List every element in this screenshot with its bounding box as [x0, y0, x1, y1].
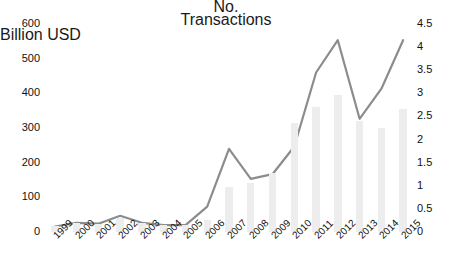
left-axis-tick-labels: 6005004003002001000 [8, 0, 40, 279]
right-tick-3.5: 3.5 [417, 64, 447, 75]
bar-2013 [356, 121, 363, 232]
right-axis-tick-labels: 4.543.532.521.510.50 [417, 0, 451, 279]
x-axis-category-labels: 1999200020012002200320042005200620072008… [44, 233, 414, 279]
bar-2010 [291, 123, 298, 232]
right-tick-4.5: 4.5 [417, 18, 447, 29]
plot-area [44, 24, 414, 232]
bar-2011 [312, 107, 319, 232]
right-tick-4: 4 [417, 41, 447, 52]
chart-container: No. Transactions Billion USD 60050040030… [0, 0, 452, 279]
right-tick-1.5: 1.5 [417, 157, 447, 168]
left-tick-300: 300 [10, 122, 40, 133]
right-tick-2.5: 2.5 [417, 110, 447, 121]
left-tick-400: 400 [10, 87, 40, 98]
bar-2014 [378, 128, 385, 232]
left-tick-500: 500 [10, 53, 40, 64]
left-tick-600: 600 [10, 18, 40, 29]
right-tick-0.5: 0.5 [417, 203, 447, 214]
left-tick-200: 200 [10, 157, 40, 168]
left-axis-title: No. Transactions [0, 0, 452, 26]
left-tick-0: 0 [10, 226, 40, 237]
bar-2012 [334, 95, 341, 232]
right-tick-2: 2 [417, 134, 447, 145]
left-tick-100: 100 [10, 191, 40, 202]
right-tick-0: 0 [417, 226, 447, 237]
right-tick-1: 1 [417, 180, 447, 191]
bar-2009 [269, 173, 276, 232]
bar-2015 [399, 109, 406, 232]
right-tick-3: 3 [417, 87, 447, 98]
